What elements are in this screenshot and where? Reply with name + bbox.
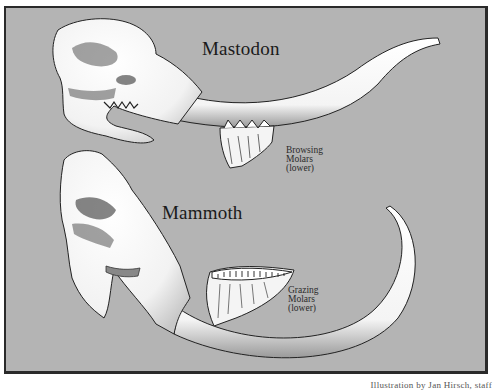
illustration-credit: Illustration by Jan Hirsch, staff (371, 380, 492, 390)
mastodon-title: Mastodon (202, 38, 280, 60)
mammoth-skull (60, 151, 415, 358)
grazing-molars-label: Grazing Molars (lower) (288, 286, 319, 313)
browsing-molars-label: Browsing Molars (lower) (286, 146, 323, 173)
skull-drawings (6, 8, 488, 374)
illustration-panel: Mastodon Browsing Molars (lower) Mammoth… (4, 6, 488, 374)
browsing-molars (220, 120, 274, 168)
mammoth-title: Mammoth (162, 202, 243, 224)
label-line: (lower) (286, 164, 323, 173)
grazing-molars (207, 267, 294, 327)
label-line: (lower) (288, 304, 319, 313)
